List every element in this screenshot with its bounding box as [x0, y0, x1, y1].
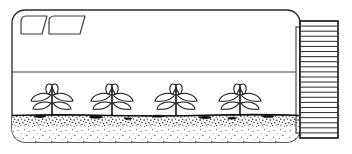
soil-sparse-layer: [9, 127, 301, 154]
terrarium-drawing: [0, 0, 352, 154]
soil-bed: [9, 115, 301, 154]
terrarium-illustration: Seedlings growing in a covered jar terra…: [0, 0, 352, 154]
cap-outline: [300, 21, 338, 138]
glare-right-icon: [49, 16, 85, 34]
jar-cap: [300, 21, 338, 138]
glare-left-icon: [21, 16, 47, 34]
